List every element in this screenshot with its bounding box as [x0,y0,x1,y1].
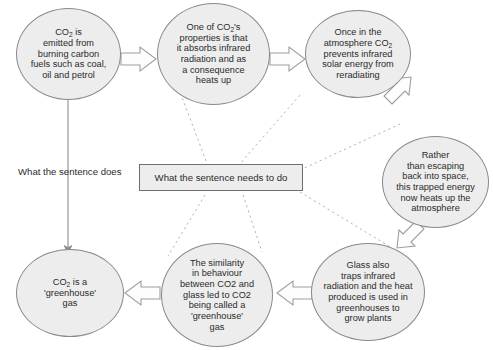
block-arrow-right-2 [270,47,305,71]
node-co2-properties-label: One of CO2's properties is that it absor… [170,22,258,86]
node-co2-greenhouse-gas-label: CO2 is a 'greenhouse' gas [37,277,103,309]
node-similarity-in-behaviour[interactable]: The similarity in behaviour between CO2 … [161,243,273,347]
block-arrow-right-1 [121,47,156,71]
center-box-what-sentence-needs-to-do[interactable]: What the sentence needs to do [139,164,303,191]
node-glass-also-traps-label: Glass also traps infrared radiation and … [317,260,420,324]
arrow-co2-emitted-to-greenhouse-gas [64,100,72,254]
block-arrow-left-5 [277,281,312,305]
node-once-in-atmosphere-label: Once in the atmosphere CO2 prevents infr… [315,27,401,80]
dotted-line-to-glass-also [300,192,392,248]
node-co2-emitted[interactable]: CO2 is emitted from burning carbon fuels… [16,8,121,100]
node-co2-emitted-label: CO2 is emitted from burning carbon fuels… [24,27,114,80]
node-similarity-in-behaviour-label: The similarity in behaviour between CO2 … [173,258,261,333]
node-glass-also-traps[interactable]: Glass also traps infrared radiation and … [311,243,425,341]
node-co2-greenhouse-gas[interactable]: CO2 is a 'greenhouse' gas [16,249,124,337]
dotted-line-to-rather-than [300,124,400,170]
block-arrow-left-6 [125,281,160,305]
node-rather-than-escaping[interactable]: Rather than escaping back into space, th… [382,136,489,228]
node-once-in-atmosphere[interactable]: Once in the atmosphere CO2 prevents infr… [305,10,411,98]
node-rather-than-escaping-label: Rather than escaping back into space, th… [389,150,482,214]
label-what-the-sentence-does: What the sentence does [18,166,121,177]
dotted-line-to-similarity [243,195,262,252]
flow-diagram: CO2 is emitted from burning carbon fuels… [0,0,493,350]
node-co2-properties[interactable]: One of CO2's properties is that it absor… [157,3,270,105]
dotted-line-to-once-in-atmosphere [238,95,300,166]
center-box-label: What the sentence needs to do [148,172,295,183]
